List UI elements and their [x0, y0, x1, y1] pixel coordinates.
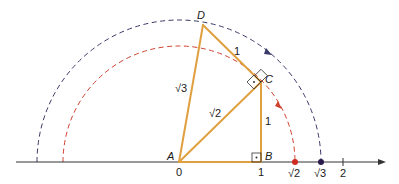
- tick-label-sqrt2: √2: [288, 167, 300, 179]
- tick-label-1: 1: [258, 166, 264, 178]
- label-BC: 1: [265, 115, 271, 127]
- right-angle-marker-C-box: [247, 75, 261, 89]
- label-AD: √3: [175, 82, 187, 94]
- label-C: C: [265, 73, 273, 85]
- tick-label-2: 2: [340, 167, 346, 179]
- label-D: D: [197, 9, 205, 21]
- label-AC: √2: [209, 107, 221, 119]
- sqrt-spiral-diagram: A B C D 1 1 √2 √3 0 1 √2 √3 2: [0, 0, 399, 184]
- sqrt2-arc-arrow-icon: [275, 101, 282, 109]
- tick-label-0: 0: [176, 166, 182, 178]
- label-B: B: [265, 150, 272, 162]
- point-sqrt3: [318, 159, 324, 165]
- right-angle-marker-B: [252, 153, 261, 162]
- triangles: [179, 25, 261, 162]
- label-A: A: [166, 150, 174, 162]
- label-CD: 1: [234, 45, 240, 57]
- axis-arrow-icon: [378, 159, 386, 165]
- segment-CD: [203, 25, 261, 82]
- tick-label-sqrt3: √3: [314, 167, 326, 179]
- point-sqrt2: [292, 159, 298, 165]
